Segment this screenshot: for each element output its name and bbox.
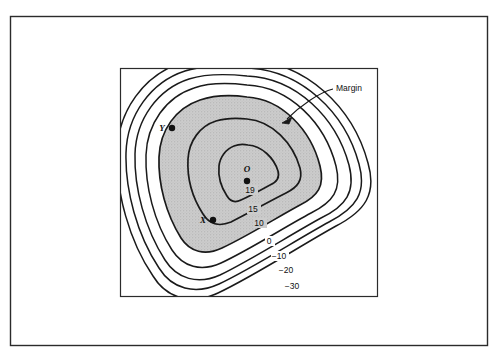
point-dot-y	[169, 125, 175, 131]
contour-label-neg20: −20	[279, 265, 294, 275]
figure-root: 19 15 10 0 −10 −20 −30 O Y X Margin	[0, 0, 496, 356]
contour-label-19: 19	[245, 185, 255, 195]
point-label-x: X	[199, 215, 207, 225]
contour-diagram: 19 15 10 0 −10 −20 −30 O Y X Margin	[0, 0, 496, 356]
point-dot-x	[210, 217, 216, 223]
contour-label-15: 15	[248, 204, 258, 214]
margin-annotation-label: Margin	[336, 83, 362, 93]
contour-label-neg30: −30	[285, 281, 300, 291]
contour-label-0: 0	[267, 236, 272, 246]
point-label-o: O	[244, 164, 251, 174]
point-dot-o	[244, 178, 250, 184]
contour-label-10: 10	[254, 218, 264, 228]
contour-label-neg10: −10	[272, 251, 287, 261]
